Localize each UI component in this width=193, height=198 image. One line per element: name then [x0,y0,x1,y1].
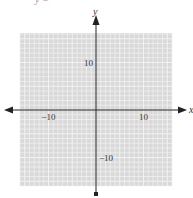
x-axis-right-arrow-icon [178,107,187,114]
x-tick-label: −10 [41,112,56,122]
x-tick-label: 10 [139,112,149,122]
y-tick-label: 10 [84,58,94,68]
y-axis-bottom-end-icon [94,192,98,196]
y-axis-label: y [92,6,98,17]
coordinate-plane: x y −101010−10 [0,0,193,198]
x-axis-left-arrow-icon [4,107,13,114]
y-tick-label: −10 [99,153,114,163]
x-axis-label: x [188,104,193,115]
